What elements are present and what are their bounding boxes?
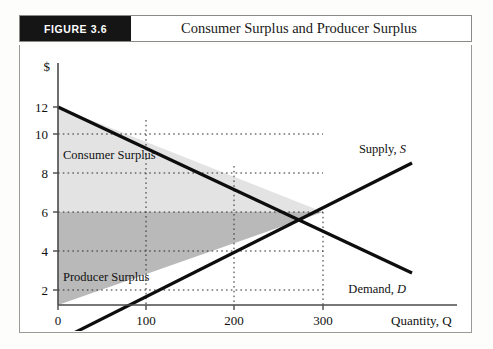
supply-label-symbol: S [400,142,407,156]
surplus-chart: $ 12 10 8 6 4 2 0 100 200 300 Quantity, … [20,45,471,331]
xtick-label-100: 100 [136,313,156,328]
ytick-label-4: 4 [42,244,49,259]
producer-surplus-label: Producer Surplus [63,270,150,284]
supply-curve-label: Supply, S [359,142,407,156]
figure-header: FIGURE 3.6 Consumer Surplus and Producer… [19,15,472,42]
ytick-label-6: 6 [42,205,49,220]
ytick-label-2: 2 [42,283,49,298]
demand-curve-label: Demand, D [348,282,406,296]
supply-label-text: Supply, [359,142,400,156]
ytick-label-12: 12 [35,100,48,115]
y-axis-label: $ [44,59,51,74]
chart-panel: $ 12 10 8 6 4 2 0 100 200 300 Quantity, … [19,45,472,333]
figure-container: FIGURE 3.6 Consumer Surplus and Producer… [0,0,493,349]
consumer-surplus-label: Consumer Surplus [63,148,156,162]
demand-label-text: Demand, [348,282,397,296]
xtick-label-300: 300 [313,313,333,328]
x-axis-label: Quantity, Q [391,313,452,328]
xtick-label-0: 0 [55,313,62,328]
figure-title: Consumer Surplus and Producer Surplus [131,16,471,41]
figure-number-badge: FIGURE 3.6 [20,16,131,41]
ytick-label-8: 8 [42,166,49,181]
demand-label-symbol: D [396,282,406,296]
xtick-label-200: 200 [224,313,244,328]
x-axis-label-text: Quantity, Q [391,313,452,328]
ytick-label-10: 10 [35,127,48,142]
